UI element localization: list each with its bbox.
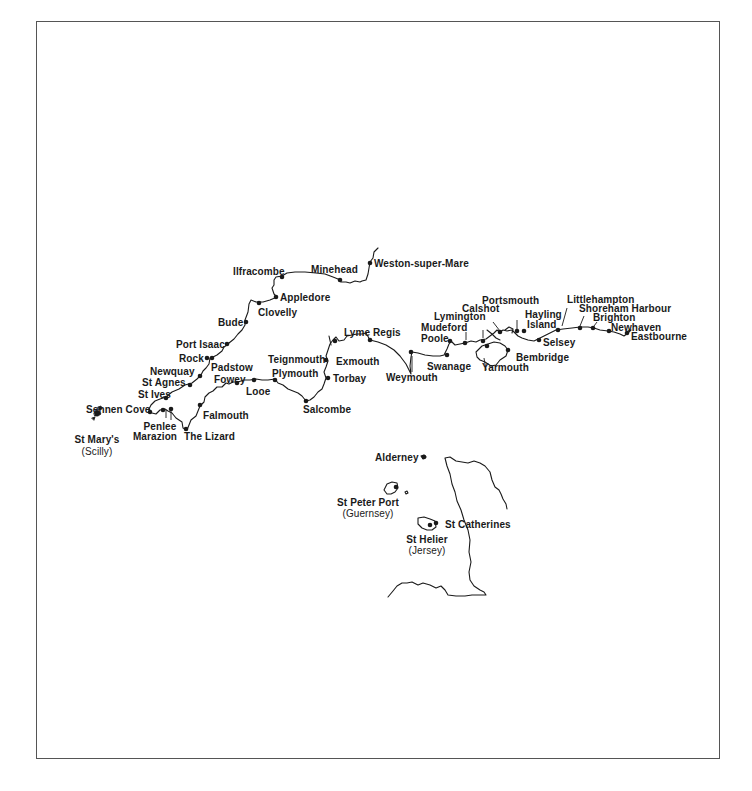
sark-outline: [405, 491, 408, 494]
label-clovelly: Clovelly: [258, 307, 297, 318]
dot-selsey: [537, 338, 542, 343]
label-portsmouth: Portsmouth: [482, 295, 539, 306]
label-jersey: (Jersey): [409, 545, 446, 556]
label-bude: Bude: [218, 317, 243, 328]
dot-bude: [244, 320, 249, 325]
dot-lymington: [481, 339, 486, 344]
label-guernsey: (Guernsey): [342, 508, 393, 519]
dot-shoreham: [578, 326, 583, 331]
label-exmouth: Exmouth: [336, 356, 379, 367]
label-padstow: Padstow: [211, 362, 253, 373]
dot-yarmouth: [485, 344, 490, 349]
leader-littlehampton: [562, 308, 567, 326]
dot-clovelly: [257, 301, 262, 306]
dot-newquay: [198, 374, 203, 379]
dot-brighton: [591, 326, 596, 331]
label-st-catherines: St Catherines: [445, 519, 511, 530]
dot-weymouth: [409, 350, 414, 355]
dot-padstow: [210, 356, 215, 361]
dot-weston: [368, 261, 373, 266]
leader-calshot: [493, 322, 500, 331]
dot-torbay: [326, 376, 331, 381]
label-marazion: Marazion: [133, 431, 177, 442]
label-lyme-regis: Lyme Regis: [344, 327, 401, 338]
leader-shoreham: [580, 316, 584, 326]
dot-port-isaac: [225, 342, 230, 347]
label-mudeford: Mudeford: [421, 322, 467, 333]
label-falmouth: Falmouth: [203, 410, 249, 421]
dot-minehead: [338, 278, 343, 283]
label-swanage: Swanage: [427, 361, 471, 372]
dot-looe: [252, 378, 257, 383]
dot-calshot: [498, 330, 503, 335]
label-fowey: Fowey: [214, 374, 246, 385]
dot-lyme: [368, 338, 373, 343]
dot-rock: [205, 356, 210, 361]
dot-alderney: [422, 455, 427, 460]
label-appledore: Appledore: [280, 292, 330, 303]
dot-bembridge: [506, 348, 511, 353]
coastline-map: [0, 0, 752, 791]
dot-falmouth: [198, 403, 203, 408]
dot-exmouth: [333, 339, 338, 344]
label-yarmouth: Yarmouth: [482, 362, 529, 373]
label-looe: Looe: [246, 386, 270, 397]
label-weymouth: Weymouth: [386, 372, 438, 383]
label-newquay: Newquay: [150, 366, 195, 377]
dot-hayling: [522, 329, 527, 334]
label-sennen-cove: Sennen Cove: [86, 404, 150, 415]
dot-st-peter-port: [394, 485, 399, 490]
label-minehead: Minehead: [311, 264, 358, 275]
label-port-isaac: Port Isaac: [176, 339, 225, 350]
dot-penlee: [161, 408, 166, 413]
label-eastbourne: Eastbourne: [631, 331, 687, 342]
dot-st-catherines: [434, 521, 439, 526]
dot-swanage: [445, 353, 450, 358]
dot-salcombe: [304, 399, 309, 404]
label-weston-super-mare: Weston-super-Mare: [374, 258, 469, 269]
dot-appledore: [274, 295, 279, 300]
dot-st-agnes: [188, 383, 193, 388]
label-bembridge: Bembridge: [516, 352, 569, 363]
label-st-helier: St Helier: [406, 534, 447, 545]
label-alderney: Alderney: [375, 452, 419, 463]
dot-mudeford: [463, 341, 468, 346]
jersey-outline: [418, 517, 436, 530]
label-st-marys: St Mary's: [75, 434, 120, 445]
label-selsey: Selsey: [543, 337, 575, 348]
label-st-ives: St Ives: [138, 389, 171, 400]
label-st-agnes: St Agnes: [142, 377, 186, 388]
label-torbay: Torbay: [333, 373, 366, 384]
dot-marazion: [169, 407, 174, 412]
label-the-lizard: The Lizard: [184, 431, 235, 442]
dot-st-helier: [428, 523, 433, 528]
dot-portsmouth: [515, 329, 520, 334]
label-salcombe: Salcombe: [303, 404, 351, 415]
label-rock: Rock: [179, 353, 204, 364]
label-ilfracombe: Ilfracombe: [233, 266, 285, 277]
label-island: Island: [527, 319, 557, 330]
label-scilly: (Scilly): [82, 446, 113, 457]
label-poole: Poole: [421, 333, 449, 344]
label-st-peter-port: St Peter Port: [337, 497, 399, 508]
label-plymouth: Plymouth: [272, 368, 318, 379]
label-teignmouth: Teignmouth: [268, 354, 325, 365]
